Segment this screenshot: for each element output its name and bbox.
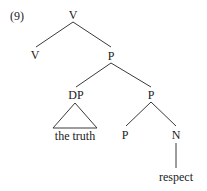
node-p-head: P bbox=[122, 129, 129, 141]
node-dp: DP bbox=[68, 89, 83, 101]
dp-triangle bbox=[53, 103, 97, 128]
node-root-v: V bbox=[69, 9, 78, 21]
edge-root-to-v bbox=[36, 22, 73, 47]
edge-p-to-dp bbox=[76, 63, 111, 87]
edge-pbar-to-phead bbox=[126, 102, 151, 126]
node-v-head: V bbox=[31, 49, 40, 61]
node-p-bar: P bbox=[148, 89, 155, 101]
edge-pbar-to-n bbox=[151, 102, 176, 126]
edge-root-to-p bbox=[73, 22, 111, 47]
edge-p-to-pbar bbox=[111, 63, 151, 87]
example-number: (9) bbox=[10, 10, 24, 22]
node-n: N bbox=[172, 129, 181, 141]
node-p-phrase: P bbox=[108, 50, 115, 62]
terminal-the-truth: the truth bbox=[55, 130, 95, 142]
tree-edges bbox=[0, 0, 207, 191]
terminal-respect: respect bbox=[159, 171, 193, 183]
